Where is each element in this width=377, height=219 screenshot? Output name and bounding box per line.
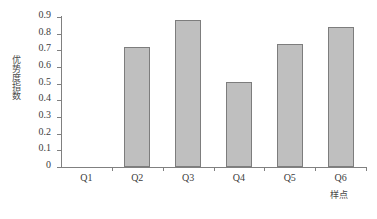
y-tick-label: 0.9 [39, 10, 52, 20]
x-tick-label: Q5 [264, 172, 315, 184]
y-tick-label: 0.7 [39, 43, 52, 53]
x-tick-label: Q6 [315, 172, 366, 184]
bar [226, 82, 252, 167]
y-tick-label: 0.3 [39, 110, 52, 120]
y-tick-label: 0 [46, 160, 51, 170]
x-axis-title: 样点 [330, 190, 348, 201]
bars-group [61, 0, 366, 168]
x-tick-label: Q2 [112, 172, 163, 184]
y-axis-title: 优势度指数 [8, 22, 24, 132]
x-tick-mark [366, 167, 367, 171]
bar [175, 20, 201, 167]
y-tick-label: 0.1 [39, 143, 52, 153]
x-tick-label: Q1 [61, 172, 112, 184]
bar [124, 47, 150, 167]
bar [277, 44, 303, 167]
x-tick-label: Q3 [163, 172, 214, 184]
y-tick-label: 0.6 [39, 60, 52, 70]
y-tick-label: 0.5 [39, 77, 52, 87]
x-axis-labels: Q1Q2Q3Q4Q5Q6 [61, 172, 366, 188]
y-tick-label: 0.4 [39, 93, 52, 103]
y-tick-label: 0.2 [39, 127, 52, 137]
bar [328, 27, 354, 167]
bar-chart: 优势度指数 00.10.20.30.40.50.60.70.80.9 Q1Q2Q… [0, 0, 377, 219]
x-tick-label: Q4 [214, 172, 265, 184]
y-tick-label: 0.8 [39, 27, 52, 37]
